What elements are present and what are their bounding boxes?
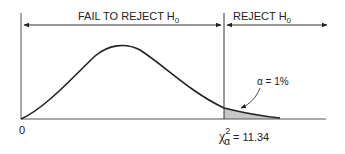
origin-label: 0 <box>19 124 25 136</box>
chi-square-diagram: FAIL TO REJECT H0 REJECT H0 α = 1% 0 χ2α… <box>0 0 345 154</box>
alpha-pointer-arrow <box>241 88 260 108</box>
reject-label: REJECT H0 <box>233 10 292 25</box>
critical-value-label: χ2α= 11.34 <box>218 126 269 147</box>
fail-to-reject-label: FAIL TO REJECT H0 <box>78 10 180 25</box>
alpha-label: α = 1% <box>257 76 289 87</box>
